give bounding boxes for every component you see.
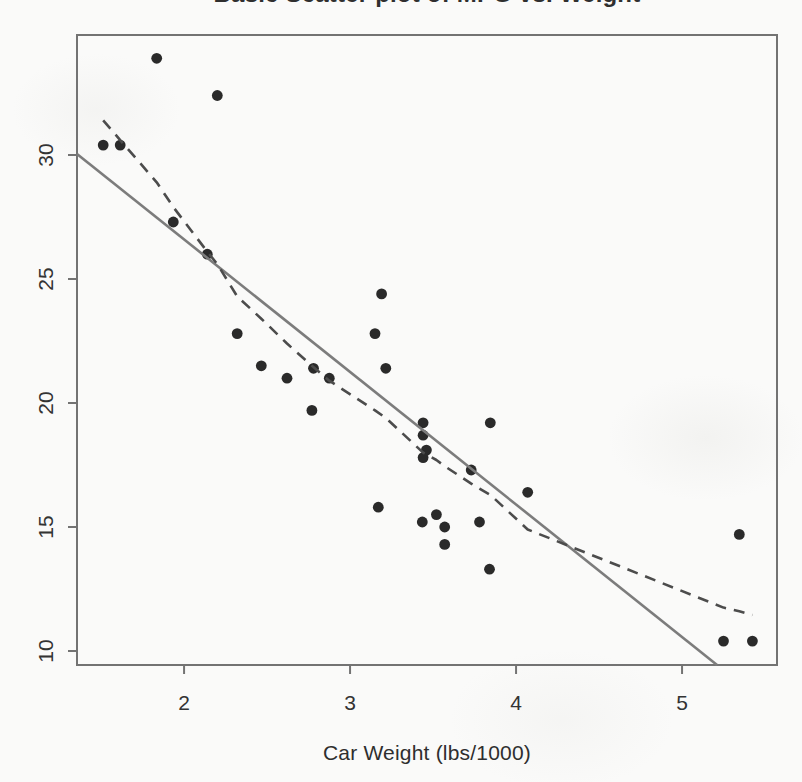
x-tick-label: 5: [676, 691, 688, 714]
y-tick-label: 20: [34, 391, 57, 414]
data-point: [376, 289, 387, 300]
data-point: [417, 517, 428, 528]
y-tick-label: 30: [34, 143, 57, 166]
data-point: [484, 564, 495, 575]
data-point: [256, 360, 267, 371]
data-point: [439, 539, 450, 550]
data-point: [522, 487, 533, 498]
plot-border: [77, 35, 777, 665]
regression-line: [77, 154, 717, 665]
data-point: [485, 417, 496, 428]
data-point: [151, 53, 162, 64]
data-point: [232, 328, 243, 339]
data-point: [212, 90, 223, 101]
y-tick-label: 15: [34, 515, 57, 538]
lowess-line: [103, 120, 752, 615]
y-tick-label: 10: [34, 639, 57, 662]
data-point: [431, 509, 442, 520]
data-point: [380, 363, 391, 374]
scatterplot-canvas: 23451015202530: [0, 0, 802, 782]
x-tick-label: 4: [510, 691, 522, 714]
data-point: [439, 522, 450, 533]
data-point: [474, 517, 485, 528]
data-point: [747, 636, 758, 647]
y-tick-label: 25: [34, 267, 57, 290]
x-tick-label: 3: [344, 691, 356, 714]
data-point: [373, 502, 384, 513]
scanned-plot-page: Basic Scatter plot of MPG vs. Weight 234…: [0, 0, 802, 782]
data-point: [98, 140, 109, 151]
data-point: [307, 405, 318, 416]
x-tick-label: 2: [178, 691, 190, 714]
data-point: [282, 373, 293, 384]
data-point: [370, 328, 381, 339]
data-point: [168, 217, 179, 228]
data-point: [718, 636, 729, 647]
data-point: [734, 529, 745, 540]
x-axis-label: Car Weight (lbs/1000): [77, 741, 777, 765]
